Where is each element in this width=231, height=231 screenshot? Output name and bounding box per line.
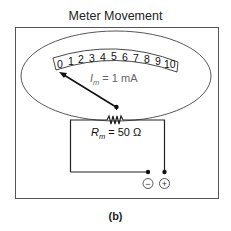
scale-tick-2: 2 (78, 53, 84, 65)
scale-tick-3: 3 (89, 52, 95, 64)
scale-tick-6: 6 (122, 51, 128, 63)
positive-terminal-dot (162, 170, 166, 174)
figure-caption: (b) (0, 210, 231, 222)
negative-terminal-symbol: − (143, 179, 153, 190)
scale-tick-1: 1 (68, 55, 74, 67)
positive-terminal-symbol: + (160, 179, 170, 190)
scale-tick-4: 4 (100, 51, 106, 63)
scale-tick-8: 8 (144, 53, 150, 65)
resistance-label: Rm = 50 Ω (91, 126, 141, 141)
meter-diagram: 0 1 2 3 4 5 6 7 8 9 10 Im = 1 mA Rm = 50… (0, 0, 231, 231)
scale-tick-7: 7 (133, 52, 139, 64)
scale-tick-10: 10 (164, 58, 176, 70)
scale-tick-5: 5 (111, 50, 117, 62)
svg-text:+: + (162, 179, 167, 189)
pointer-arrowhead (59, 72, 67, 78)
scale-tick-0: 0 (57, 58, 63, 70)
svg-text:−: − (145, 179, 150, 189)
coil-resistor-circuit (71, 116, 165, 172)
negative-terminal-dot (146, 170, 150, 174)
current-rating-label: Im = 1 mA (90, 72, 138, 87)
scale-tick-9: 9 (155, 55, 161, 67)
